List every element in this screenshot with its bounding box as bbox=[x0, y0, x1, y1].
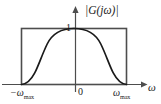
origin-label: 0 bbox=[78, 87, 83, 97]
x-tick-omega-symbol: ω bbox=[113, 87, 120, 98]
x-tick-negative-omega-symbol: −ω bbox=[10, 87, 24, 98]
y-axis-arrowhead-icon bbox=[72, 6, 78, 13]
magnitude-spectrum-figure: |G(jω)| 1 0 ω −ωmax ωmax bbox=[0, 0, 161, 104]
x-tick-omega-subscript: max bbox=[120, 93, 130, 100]
y-tick-label-one: 1 bbox=[66, 23, 71, 33]
x-tick-negative-omega-subscript: max bbox=[24, 93, 34, 100]
magnitude-curve bbox=[22, 29, 127, 85]
x-tick-label-omega-max: ωmax bbox=[113, 88, 130, 100]
x-axis-label: ω bbox=[148, 82, 156, 93]
y-axis-label: |G(jω)| bbox=[85, 5, 119, 17]
bounding-box-rect bbox=[22, 29, 127, 85]
x-tick-label-negative-omega-max: −ωmax bbox=[10, 88, 34, 100]
x-axis-arrowhead-icon bbox=[141, 81, 148, 87]
